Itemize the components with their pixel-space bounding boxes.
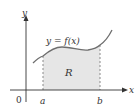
area-diagram: y x 0 a b y = f(x) R bbox=[0, 0, 137, 111]
origin-label: 0 bbox=[16, 95, 22, 105]
x-axis-label: x bbox=[129, 85, 134, 95]
bound-a-label: a bbox=[40, 96, 45, 106]
region-label: R bbox=[64, 67, 73, 78]
y-axis-label: y bbox=[21, 8, 28, 18]
curve-label: y = f(x) bbox=[45, 36, 80, 46]
bound-b-label: b bbox=[97, 96, 103, 106]
x-axis-arrow-icon bbox=[122, 88, 128, 93]
